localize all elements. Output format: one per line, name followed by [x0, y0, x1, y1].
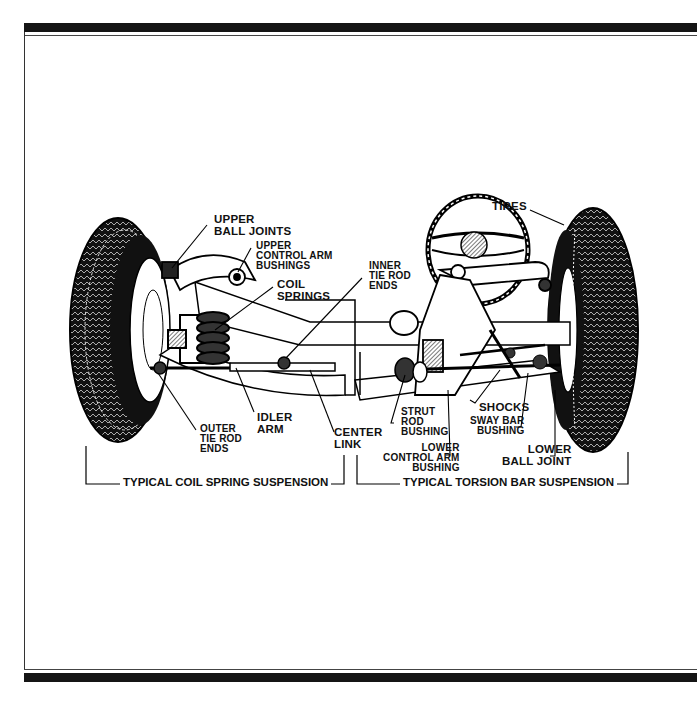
label-lower-control-arm-bushing: LOWER CONTROL ARM BUSHING — [383, 443, 460, 473]
label-shocks: SHOCKS — [479, 401, 529, 413]
label-center-link: CENTER LINK — [334, 426, 382, 450]
label-idler-arm: IDLER ARM — [257, 411, 293, 435]
caption-torsion-bar-suspension: TYPICAL TORSION BAR SUSPENSION — [400, 476, 617, 488]
label-sway-bar-bushing: SWAY BAR BUSHING — [470, 416, 524, 436]
label-lower-ball-joint: LOWER BALL JOINT — [502, 443, 572, 467]
caption-coil-spring-suspension: TYPICAL COIL SPRING SUSPENSION — [120, 476, 331, 488]
label-coil-springs: COIL SPRINGS — [277, 278, 330, 302]
label-strut-rod-bushing: STRUT ROD BUSHING — [401, 407, 449, 437]
suspension-illustration — [0, 0, 697, 704]
left-tire — [70, 218, 170, 442]
label-outer-tie-rod-ends: OUTER TIE ROD ENDS — [200, 424, 242, 454]
label-tires: TIRES — [492, 200, 527, 212]
label-upper-ball-joints: UPPER BALL JOINTS — [214, 213, 291, 237]
label-inner-tie-rod-ends: INNER TIE ROD ENDS — [369, 261, 411, 291]
label-upper-control-arm-bushings: UPPER CONTROL ARM BUSHINGS — [256, 241, 333, 271]
left-upper-control-arm — [162, 255, 255, 290]
